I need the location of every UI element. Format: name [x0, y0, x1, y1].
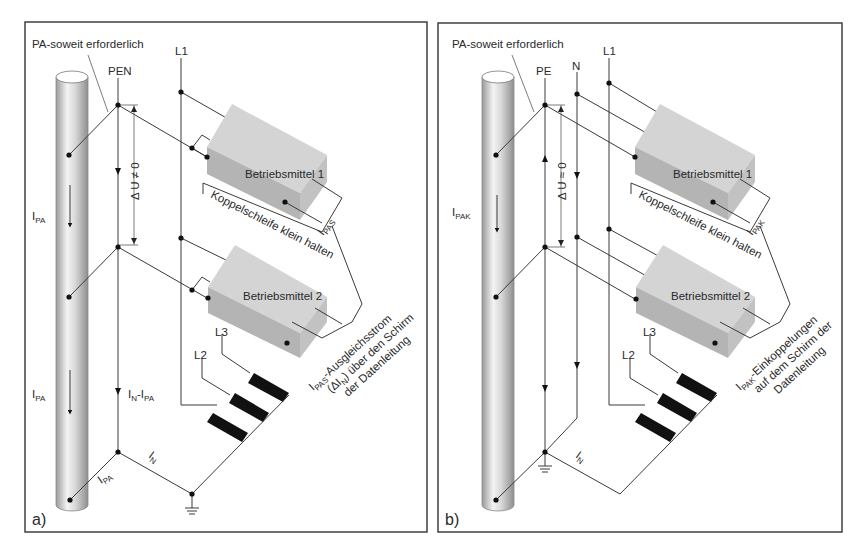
pe-label: PE — [536, 65, 552, 77]
current-neutral-b: IN — [572, 449, 588, 467]
l1-label-b: L1 — [603, 45, 616, 57]
equipotential-pole-icon — [56, 71, 88, 511]
panel-b: PA-soweit erforderlich PE N L1 L2 L3 Bet… — [438, 23, 844, 532]
figure: PA-soweit erforderlich PEN L1 L2 L3 Betr… — [0, 0, 854, 555]
current-neutral-a: IN — [145, 449, 161, 467]
current-pole-upper-a: IPA — [32, 210, 46, 225]
voltage-label-a: Δ U ≠ 0 — [129, 162, 141, 200]
voltage-label-b: Δ U ≈ 0 — [556, 162, 568, 200]
l2-label-a: L2 — [194, 349, 207, 361]
device-2-label-b: Betriebsmittel 2 — [671, 290, 750, 302]
device-2-label-a: Betriebsmittel 2 — [243, 290, 322, 302]
l1-label-a: L1 — [175, 45, 188, 57]
l2-label-b: L2 — [622, 349, 635, 361]
pen-label: PEN — [108, 65, 132, 77]
pa-note-a: PA-soweit erforderlich — [32, 38, 144, 50]
panel-a-letter: a) — [32, 511, 46, 528]
panel-a: PA-soweit erforderlich PEN L1 L2 L3 Betr… — [25, 22, 427, 532]
l3-label-b: L3 — [643, 326, 656, 338]
current-pen-a: IN-IPA — [128, 388, 155, 403]
current-pole-lower-a: IPA — [32, 388, 46, 403]
device-1-label-b: Betriebsmittel 1 — [673, 168, 752, 180]
n-label: N — [572, 60, 580, 72]
current-pole-b: IPAK — [452, 206, 471, 221]
panel-b-letter: b) — [445, 511, 459, 528]
equipotential-pole-icon — [482, 71, 514, 511]
pa-note-b: PA-soweit erforderlich — [452, 38, 564, 50]
ground-icon — [185, 494, 199, 514]
l3-label-a: L3 — [215, 326, 228, 338]
device-1-label-a: Betriebsmittel 1 — [245, 168, 324, 180]
current-ground-branch-a: IPA — [95, 468, 115, 488]
current-loop-a: IPAS — [315, 215, 338, 239]
